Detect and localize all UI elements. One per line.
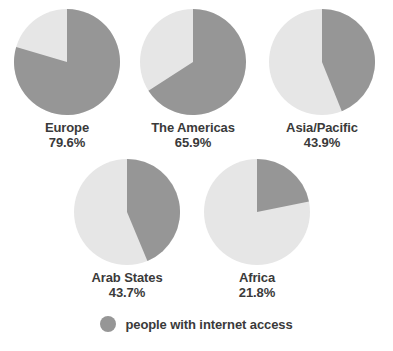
- pie-label-the-americas: The Americas: [123, 120, 263, 135]
- pie-group-arab-states: Arab States 43.7%: [57, 159, 197, 300]
- pie-label-europe: Europe: [0, 120, 137, 135]
- pie-group-asia-pacific: Asia/Pacific 43.9%: [252, 9, 392, 150]
- pie-chart-figure: Europe 79.6% The Americas 65.9% Asia/Pac…: [0, 0, 393, 351]
- pie-group-europe: Europe 79.6%: [0, 9, 137, 150]
- pie-value-asia-pacific: 43.9%: [252, 135, 392, 150]
- legend-label: people with internet access: [125, 317, 292, 332]
- pie-europe: [14, 9, 120, 115]
- pie-value-arab-states: 43.7%: [57, 285, 197, 300]
- pie-value-africa: 21.8%: [187, 285, 327, 300]
- pie-group-the-americas: The Americas 65.9%: [123, 9, 263, 150]
- chart-legend: people with internet access: [0, 316, 393, 332]
- pie-the-americas: [140, 9, 246, 115]
- pie-label-africa: Africa: [187, 270, 327, 285]
- pie-group-africa: Africa 21.8%: [187, 159, 327, 300]
- legend-swatch-icon: [100, 316, 116, 332]
- pie-value-the-americas: 65.9%: [123, 135, 263, 150]
- pie-label-asia-pacific: Asia/Pacific: [252, 120, 392, 135]
- pie-asia-pacific: [269, 9, 375, 115]
- pie-africa: [204, 159, 310, 265]
- pie-label-arab-states: Arab States: [57, 270, 197, 285]
- pie-value-europe: 79.6%: [0, 135, 137, 150]
- pie-arab-states: [74, 159, 180, 265]
